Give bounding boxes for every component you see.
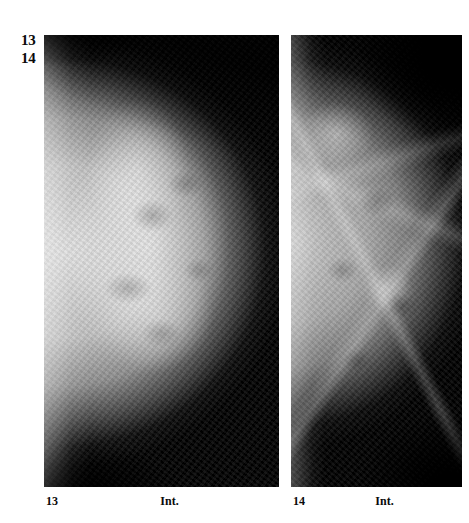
mammogram-image-13	[44, 35, 279, 487]
mammogram-image-14	[291, 35, 462, 487]
caption-row-13: 13 Int.	[44, 491, 279, 511]
corner-index-labels: 13 14	[21, 31, 45, 67]
corner-index-14: 14	[21, 49, 45, 67]
caption-row-14: 14 Int.	[291, 491, 462, 511]
side-marker-13: Int.	[52, 491, 287, 511]
figure-page: 13 14 13 Int. 14 Int.	[0, 0, 469, 523]
mammogram-panel-14	[291, 35, 462, 487]
mammogram-panel-13	[44, 35, 279, 487]
side-marker-14: Int.	[299, 491, 469, 511]
corner-index-13: 13	[21, 31, 45, 49]
